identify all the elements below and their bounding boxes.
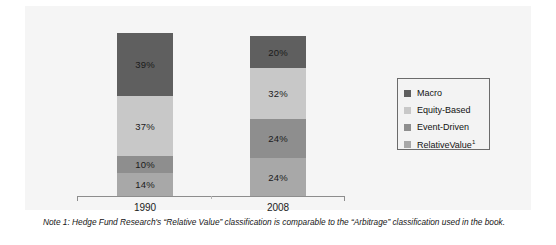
legend-swatch-icon	[404, 124, 411, 131]
bar-segment-label: 24%	[268, 133, 288, 144]
legend-footnote-marker: 1	[472, 139, 475, 145]
legend-swatch-icon	[404, 107, 411, 114]
x-axis-label-1990: 1990	[105, 202, 185, 213]
legend-swatch-icon	[404, 90, 411, 97]
legend-item-equity-based[interactable]: Equity-Based	[404, 102, 489, 118]
bar-segment-event-driven: 10%	[117, 156, 173, 173]
bar-segment-label: 37%	[135, 121, 155, 132]
bar-segment-equity-based: 32%	[250, 68, 306, 119]
x-axis-tick-right	[344, 196, 345, 201]
legend-item-label: Event-Driven	[417, 122, 469, 132]
stacked-bar-2008: 20% 32% 24% 24%	[250, 36, 306, 196]
x-axis-label-2008: 2008	[238, 202, 318, 213]
stacked-bar-1990: 39% 37% 10% 14%	[117, 33, 173, 196]
legend-item-label: Equity-Based	[417, 105, 471, 115]
legend-item-event-driven[interactable]: Event-Driven	[404, 119, 489, 135]
bar-segment-label: 39%	[135, 59, 155, 70]
bar-segment-event-driven: 24%	[250, 119, 306, 158]
bar-segment-label: 32%	[268, 88, 288, 99]
legend-item-label-text: RelativeValue	[417, 140, 472, 150]
bar-segment-relative-value: 24%	[250, 158, 306, 196]
chart-page: 39% 37% 10% 14% 20% 32% 24% 24	[0, 0, 556, 245]
chart-legend: Macro Equity-Based Event-Driven Relative…	[397, 78, 490, 150]
bar-segment-label: 10%	[135, 159, 155, 170]
bar-segment-macro: 20%	[250, 36, 306, 68]
bar-segment-equity-based: 37%	[117, 96, 173, 156]
legend-swatch-icon	[404, 141, 411, 148]
plot-area: 39% 37% 10% 14% 20% 32% 24% 24	[0, 0, 556, 245]
x-axis-tick-left	[77, 196, 78, 201]
legend-item-macro[interactable]: Macro	[404, 85, 489, 101]
legend-item-relative-value[interactable]: RelativeValue1	[404, 136, 489, 152]
bar-segment-label: 24%	[268, 172, 288, 183]
bar-segment-label: 14%	[135, 179, 155, 190]
legend-item-label: Macro	[417, 88, 442, 98]
bar-segment-relative-value: 14%	[117, 173, 173, 196]
x-axis-tick-middle	[211, 196, 212, 199]
bar-segment-macro: 39%	[117, 33, 173, 96]
figure-footnote: Note 1: Hedge Fund Research's “Relative …	[43, 217, 521, 229]
bar-segment-label: 20%	[268, 47, 288, 58]
legend-item-label: RelativeValue1	[417, 139, 475, 150]
